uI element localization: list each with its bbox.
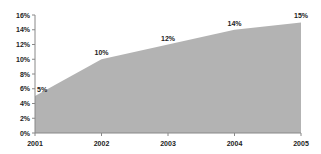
y-tick-label: 8%: [20, 71, 31, 78]
area-chart: 0%2%4%6%8%10%12%14%16% 20012002200320042…: [0, 0, 321, 154]
x-tick-label: 2002: [94, 140, 110, 147]
x-axis-ticks: 20012002200320042005: [27, 133, 309, 147]
x-tick-label: 2003: [160, 140, 176, 147]
data-label: 14%: [227, 20, 242, 27]
y-tick-label: 16%: [16, 12, 31, 19]
data-label: 5%: [37, 86, 48, 93]
data-label: 15%: [294, 12, 309, 19]
x-tick-label: 2001: [27, 140, 43, 147]
y-tick-label: 10%: [16, 56, 31, 63]
y-tick-label: 0%: [20, 130, 31, 137]
data-label: 10%: [94, 49, 109, 56]
x-tick-label: 2005: [293, 140, 309, 147]
y-tick-label: 2%: [20, 115, 31, 122]
y-tick-label: 6%: [20, 85, 31, 92]
y-tick-label: 14%: [16, 26, 31, 33]
x-tick-label: 2004: [227, 140, 243, 147]
y-axis-ticks: 0%2%4%6%8%10%12%14%16%: [16, 12, 35, 137]
y-tick-label: 12%: [16, 41, 31, 48]
y-tick-label: 4%: [20, 100, 31, 107]
data-label: 12%: [161, 35, 176, 42]
